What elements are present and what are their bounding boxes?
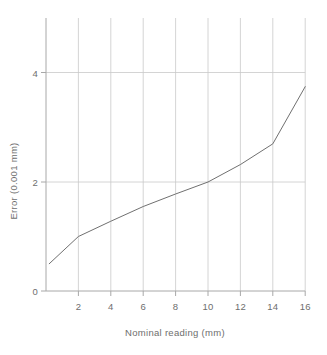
vertical-gridlines [78,18,305,291]
xtick-label-2: 2 [76,301,81,312]
ytick-label-4: 4 [24,67,38,78]
ytick-label-0: 0 [24,286,38,297]
xtick-label-10: 10 [203,301,214,312]
x-axis-title: Nominal reading (mm) [125,327,225,338]
y-tick-marks [41,73,46,292]
xtick-label-14: 14 [267,301,278,312]
xtick-label-16: 16 [300,301,311,312]
y-axis-title: Error (0.001 mm) [8,142,19,219]
xtick-label-12: 12 [235,301,246,312]
xtick-label-4: 4 [108,301,113,312]
data-series-error [49,87,305,264]
ytick-label-2: 2 [24,177,38,188]
xtick-label-8: 8 [173,301,178,312]
x-tick-marks [78,291,305,296]
xtick-label-6: 6 [140,301,145,312]
chart-figure: 2 4 6 8 10 12 14 16 0 2 4 Nominal readin… [0,0,327,355]
